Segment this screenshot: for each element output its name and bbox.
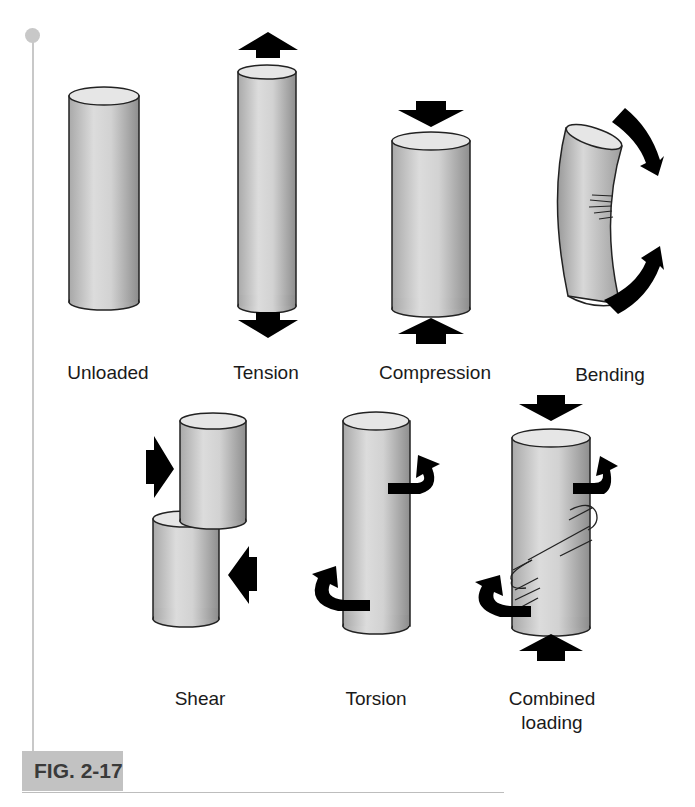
label-shear: Shear — [150, 688, 250, 710]
loading-diagram — [0, 0, 695, 807]
cylinder-combined — [511, 429, 597, 636]
combined-arrow-up-icon — [519, 634, 583, 661]
label-combined-line2: loading — [492, 712, 612, 734]
compression-arrow-down-icon — [398, 101, 464, 127]
label-unloaded: Unloaded — [52, 362, 164, 384]
label-torsion: Torsion — [326, 688, 426, 710]
figure-number-tag: FIG. 2-17 — [22, 751, 123, 791]
label-tension: Tension — [216, 362, 316, 384]
cylinder-tension — [238, 65, 296, 313]
cylinder-bending — [557, 119, 624, 305]
shear-arrow-left-icon — [228, 546, 257, 604]
tension-arrow-down-icon — [238, 312, 298, 338]
label-combined-line1: Combined — [492, 688, 612, 710]
label-compression: Compression — [370, 362, 500, 384]
figure-canvas: Unloaded Tension Compression Bending She… — [0, 0, 695, 807]
cylinder-shear-top — [180, 413, 246, 529]
cylinder-unloaded — [69, 87, 139, 310]
combined-arrow-down-icon — [519, 395, 583, 421]
label-bending: Bending — [555, 364, 665, 386]
tension-arrow-up-icon — [238, 32, 298, 58]
bottom-rule — [22, 792, 504, 793]
cylinder-compression — [392, 132, 470, 317]
compression-arrow-up-icon — [398, 318, 464, 344]
shear-arrow-right-icon — [146, 436, 174, 498]
